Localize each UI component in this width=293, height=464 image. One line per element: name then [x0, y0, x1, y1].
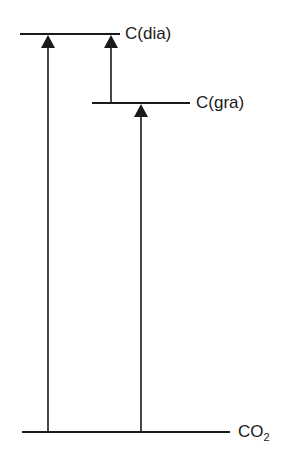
arrowhead-icon — [41, 35, 55, 48]
label-co2-main: CO — [238, 422, 264, 441]
arrow-graphite-to-diamond — [104, 35, 118, 103]
label-co2-subscript: 2 — [264, 431, 270, 443]
label-graphite: C(gra) — [196, 94, 244, 111]
label-co2: CO2 — [238, 423, 270, 443]
arrow-co2-to-graphite — [134, 104, 148, 432]
arrow-co2-to-diamond — [41, 35, 55, 432]
label-diamond: C(dia) — [125, 25, 171, 42]
energy-level-diagram: C(dia) C(gra) CO2 — [0, 0, 293, 464]
arrowhead-icon — [104, 35, 118, 48]
diagram-canvas — [0, 0, 293, 464]
arrowhead-icon — [134, 104, 148, 117]
